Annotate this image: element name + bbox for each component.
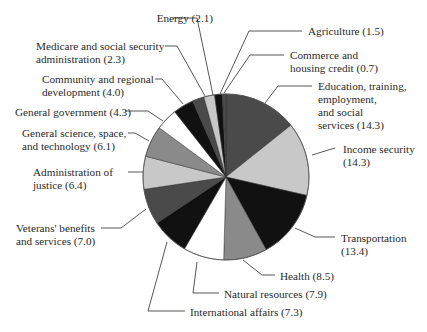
label-general-science: General science, space, and technology (… bbox=[22, 127, 126, 153]
label-administration-justice: Administration of justice (6.4) bbox=[33, 166, 113, 192]
label-community: Community and regional development (4.0) bbox=[42, 73, 154, 99]
label-veterans: Veterans' benefits and services (7.0) bbox=[16, 222, 95, 248]
leader-line-transportation bbox=[295, 228, 335, 237]
label-health: Health (8.5) bbox=[280, 270, 334, 283]
leader-line-general-science bbox=[128, 133, 149, 141]
leader-line-medicare bbox=[165, 46, 205, 96]
pie-slices bbox=[143, 94, 309, 260]
leader-line-natural-resources bbox=[193, 262, 219, 293]
leader-line-income-security bbox=[312, 148, 335, 155]
leader-line-community bbox=[155, 79, 183, 104]
label-medicare: Medicare and social security administrat… bbox=[36, 40, 164, 66]
label-income-security: Income security (14.3) bbox=[343, 143, 415, 169]
label-energy: Energy (2.1) bbox=[103, 12, 213, 25]
label-international-affairs: International affairs (7.3) bbox=[190, 306, 303, 319]
leader-line-commerce bbox=[224, 55, 284, 93]
leader-line-veterans bbox=[101, 209, 146, 228]
leader-line-health bbox=[243, 260, 275, 275]
leader-line-energy bbox=[173, 18, 213, 95]
label-agriculture: Agriculture (1.5) bbox=[308, 25, 384, 38]
label-general-government: General government (4.3) bbox=[15, 106, 131, 119]
leader-line-education bbox=[265, 86, 312, 103]
label-natural-resources: Natural resources (7.9) bbox=[224, 288, 327, 301]
label-transportation: Transportation (13.4) bbox=[341, 232, 406, 258]
label-education: Education, training, employment, and soc… bbox=[318, 80, 407, 132]
leader-line-international-affairs bbox=[148, 242, 185, 311]
label-commerce: Commerce and housing credit (0.7) bbox=[290, 49, 378, 75]
